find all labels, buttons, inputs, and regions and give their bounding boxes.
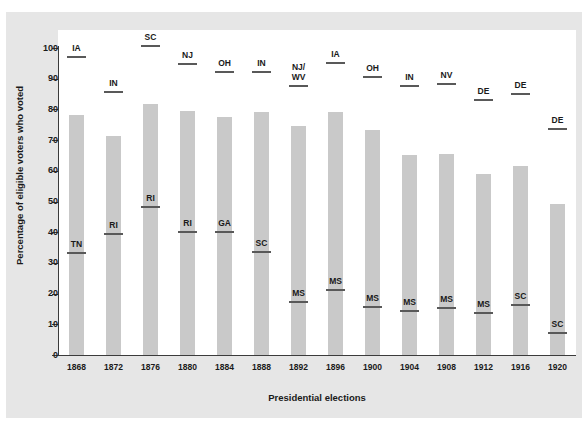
high-state-marker-label: IA [316, 50, 356, 59]
y-axis-tick-label: 10 [32, 320, 58, 329]
bar [328, 112, 343, 355]
low-state-marker [178, 231, 197, 233]
high-state-marker [511, 93, 530, 95]
y-axis-tick-label: 100 [32, 44, 58, 53]
x-axis-tick-label: 1904 [390, 362, 430, 372]
x-axis-tick-label: 1872 [94, 362, 134, 372]
low-state-marker [252, 251, 271, 253]
bar [513, 166, 528, 355]
low-state-marker [326, 289, 345, 291]
x-axis-tick-label: 1900 [353, 362, 393, 372]
low-state-marker-label: MS [390, 298, 430, 307]
y-axis-tick-label-wrapper: 50 [20, 197, 58, 206]
high-state-marker [67, 56, 86, 58]
low-state-marker-label: RI [131, 194, 171, 203]
low-state-marker [289, 301, 308, 303]
high-state-marker-label: IN [242, 59, 282, 68]
y-axis-tick-label-wrapper: 100 [20, 44, 58, 53]
bar [106, 136, 121, 355]
bar [476, 174, 491, 355]
x-axis-tick-label: 1920 [538, 362, 578, 372]
x-axis-tick-label: 1884 [205, 362, 245, 372]
y-axis-tick-label: 50 [32, 197, 58, 206]
high-state-marker [363, 76, 382, 78]
y-axis-tick-label-wrapper: 30 [20, 258, 58, 267]
y-axis-title: Percentage of eligible voters who voted [14, 61, 25, 291]
high-state-marker [141, 45, 160, 47]
y-axis-tick-label: 40 [32, 228, 58, 237]
x-axis-tick-label: 1876 [131, 362, 171, 372]
low-state-marker [437, 307, 456, 309]
high-state-marker [178, 63, 197, 65]
x-axis-tick-label: 1912 [464, 362, 504, 372]
y-axis-tick-label-wrapper: 70 [20, 136, 58, 145]
chart-figure: 0102030405060708090100 Percentage of eli… [0, 0, 588, 429]
high-state-marker-label: OH [353, 64, 393, 73]
low-state-marker [141, 206, 160, 208]
high-state-marker [289, 85, 308, 87]
high-state-marker [437, 83, 456, 85]
high-state-marker-label: IN [94, 79, 134, 88]
bar [402, 155, 417, 355]
y-axis-tick-label-wrapper: 40 [20, 228, 58, 237]
high-state-marker-label: DE [538, 116, 578, 125]
low-state-marker [400, 310, 419, 312]
low-state-marker [474, 312, 493, 314]
bar [69, 115, 84, 355]
bar [217, 117, 232, 355]
x-axis-tick-label: 1888 [242, 362, 282, 372]
x-axis-tick-label: 1892 [279, 362, 319, 372]
low-state-marker [548, 332, 567, 334]
high-state-marker-label: OH [205, 59, 245, 68]
low-state-marker-label: RI [168, 219, 208, 228]
y-axis-tick-label: 60 [32, 166, 58, 175]
low-state-marker-label: SC [242, 239, 282, 248]
high-state-marker [215, 71, 234, 73]
x-axis-tick-label: 1908 [427, 362, 467, 372]
low-state-marker-label: MS [464, 300, 504, 309]
y-axis-tick-label-wrapper: 10 [20, 320, 58, 329]
x-axis-tick-label: 1896 [316, 362, 356, 372]
x-axis-tick-label: 1868 [57, 362, 97, 372]
bar [291, 126, 306, 355]
high-state-marker [548, 128, 567, 130]
high-state-marker-label: NJ/WV [279, 63, 319, 82]
low-state-marker-label: TN [57, 240, 97, 249]
y-axis-line [58, 46, 59, 356]
x-axis-tick-label: 1880 [168, 362, 208, 372]
high-state-marker [104, 91, 123, 93]
high-state-marker [400, 85, 419, 87]
high-state-marker-label: DE [464, 87, 504, 96]
y-axis-tick-label: 30 [32, 258, 58, 267]
low-state-marker [104, 233, 123, 235]
low-state-marker-label: MS [427, 295, 467, 304]
low-state-marker-label: SC [538, 320, 578, 329]
y-axis-tick-label: 70 [32, 136, 58, 145]
high-state-marker-label: NJ [168, 51, 208, 60]
high-state-marker [252, 71, 271, 73]
y-axis-tick-label: 80 [32, 105, 58, 114]
low-state-marker-label: GA [205, 219, 245, 228]
x-axis-tick-label: 1916 [501, 362, 541, 372]
x-axis-line [58, 355, 576, 356]
low-state-marker-label: MS [316, 277, 356, 286]
y-axis-tick-label: 0 [32, 351, 58, 360]
y-axis-tick-label-wrapper: 20 [20, 289, 58, 298]
low-state-marker-label: MS [279, 289, 319, 298]
high-state-marker [474, 99, 493, 101]
bar [180, 111, 195, 355]
y-axis-tick-label-wrapper: 90 [20, 74, 58, 83]
bar [365, 130, 380, 355]
high-state-marker-label: SC [131, 33, 171, 42]
high-state-marker-label: IN [390, 73, 430, 82]
x-axis-title: Presidential elections [58, 392, 576, 403]
y-axis-tick-label-wrapper: 80 [20, 105, 58, 114]
y-axis-tick-label-wrapper: 0 [20, 351, 58, 360]
high-state-marker-label: DE [501, 81, 541, 90]
high-state-marker [326, 62, 345, 64]
y-axis-tick-label-wrapper: 60 [20, 166, 58, 175]
low-state-marker-label: MS [353, 294, 393, 303]
low-state-marker-label: SC [501, 292, 541, 301]
low-state-marker [363, 306, 382, 308]
low-state-marker-label: RI [94, 221, 134, 230]
